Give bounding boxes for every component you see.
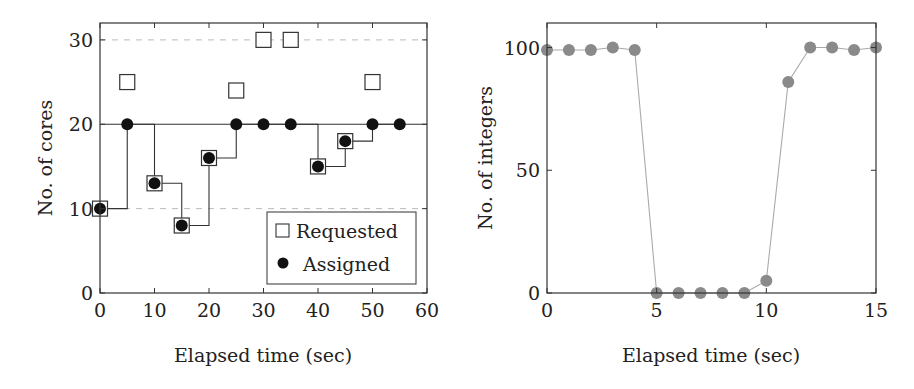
x-tick-label: 20: [197, 299, 221, 321]
integers-line: [547, 48, 876, 293]
left-y-axis-title: No. of cores: [34, 100, 56, 216]
assigned-step-line: [100, 124, 400, 225]
assigned-marker: [339, 135, 351, 147]
assigned-marker: [230, 118, 242, 130]
integers-polyline: [547, 48, 876, 293]
assigned-marker: [367, 118, 379, 130]
right-y-axis-title: No. of integers: [474, 86, 496, 230]
integers-markers: [541, 42, 882, 299]
legend-assigned-icon: [278, 258, 289, 269]
y-tick-label: 0: [81, 282, 93, 304]
assigned-marker: [149, 177, 161, 189]
x-tick-label: 0: [541, 299, 553, 321]
right-plot-frame: [547, 23, 876, 293]
assigned-marker: [203, 152, 215, 164]
assigned-marker: [285, 118, 297, 130]
integers-marker: [563, 44, 575, 56]
requested-marker: [120, 75, 135, 90]
assigned-marker: [312, 160, 324, 172]
integers-marker: [782, 76, 794, 88]
requested-marker: [283, 32, 298, 47]
integers-marker: [848, 44, 860, 56]
x-tick-label: 10: [754, 299, 778, 321]
x-tick-label: 10: [142, 299, 166, 321]
integers-marker: [804, 42, 816, 54]
x-tick-label: 40: [306, 299, 330, 321]
cores-chart: 01020304050600102030 Elapsed time (sec) …: [34, 23, 439, 366]
x-tick-label: 15: [864, 299, 888, 321]
right-ticks: 051015050100: [504, 23, 888, 321]
requested-marker: [229, 83, 244, 98]
x-tick-label: 30: [251, 299, 275, 321]
x-tick-label: 0: [94, 299, 106, 321]
y-tick-label: 0: [528, 282, 540, 304]
assigned-step-path: [100, 124, 400, 225]
x-tick-label: 50: [360, 299, 384, 321]
integers-marker: [760, 275, 772, 287]
y-tick-label: 30: [69, 29, 93, 51]
requested-marker: [256, 32, 271, 47]
assigned-marker: [258, 118, 270, 130]
assigned-marker: [394, 118, 406, 130]
right-x-axis-title: Elapsed time (sec): [622, 344, 800, 366]
legend-assigned-label: Assigned: [302, 253, 390, 275]
integers-marker: [607, 42, 619, 54]
y-tick-label: 10: [69, 198, 93, 220]
y-tick-label: 20: [69, 113, 93, 135]
integers-marker: [826, 42, 838, 54]
left-legend: Requested Assigned: [267, 212, 416, 284]
legend-requested-label: Requested: [296, 220, 398, 242]
x-tick-label: 60: [415, 299, 439, 321]
left-x-axis-title: Elapsed time (sec): [174, 344, 352, 366]
integers-marker: [629, 44, 641, 56]
assigned-marker: [121, 118, 133, 130]
y-tick-label: 50: [516, 159, 540, 181]
assigned-marker: [176, 220, 188, 232]
integers-chart: 051015050100 Elapsed time (sec) No. of i…: [474, 23, 888, 366]
figure: 01020304050600102030 Elapsed time (sec) …: [0, 0, 914, 389]
y-tick-label: 100: [504, 37, 540, 59]
integers-marker: [585, 44, 597, 56]
legend-requested-icon: [276, 224, 289, 237]
x-tick-label: 5: [651, 299, 663, 321]
requested-marker: [365, 75, 380, 90]
